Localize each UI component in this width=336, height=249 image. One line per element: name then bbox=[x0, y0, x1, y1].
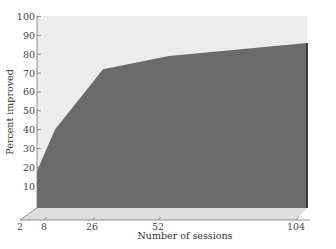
y-tick-label: 90 bbox=[23, 30, 35, 41]
y-tick-label: 30 bbox=[23, 143, 35, 154]
x-axis-title: Number of sessions bbox=[138, 230, 233, 241]
y-axis-title: Percent improved bbox=[4, 69, 15, 155]
y-tick-label: 70 bbox=[23, 68, 35, 79]
x-tick-label: 2 bbox=[17, 221, 23, 232]
x-tick-label: 104 bbox=[287, 221, 305, 232]
chart-floor bbox=[20, 208, 307, 220]
y-tick-label: 60 bbox=[23, 86, 35, 97]
y-tick-label: 50 bbox=[23, 105, 35, 116]
y-tick-label: 40 bbox=[23, 124, 35, 135]
y-tick-label: 80 bbox=[23, 49, 35, 60]
x-tick-label: 26 bbox=[86, 221, 98, 232]
y-tick-label: 100 bbox=[17, 11, 35, 22]
x-tick-label: 8 bbox=[41, 221, 47, 232]
y-tick-label: 20 bbox=[23, 162, 35, 173]
chart: 102030405060708090100 282652104 Number o… bbox=[0, 0, 336, 249]
y-tick-label: 10 bbox=[23, 181, 35, 192]
